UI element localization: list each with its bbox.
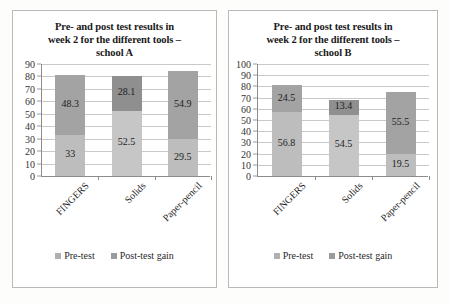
bar-fingers: 48.333 [55, 75, 85, 176]
figure-page: Pre- and post test results in week 2 for… [0, 0, 450, 303]
data-label-pre-test: 33 [65, 148, 75, 159]
x-axis-tick-mark [98, 176, 99, 180]
y-axis-tick-label: 0 [246, 171, 251, 182]
data-label-post-test-gain: 48.3 [61, 98, 79, 109]
segment-pre-test: 29.5 [168, 139, 198, 176]
y-axis-tick-label: 90 [241, 70, 251, 81]
x-axis-category-label: FINGERS [270, 180, 307, 217]
chart-title-line-3: school B [241, 46, 425, 59]
gridline [258, 75, 429, 76]
legend-item-post-test-gain[interactable]: Post-test gain [329, 250, 392, 261]
chart-title-line-3: school A [25, 46, 204, 59]
y-axis-tick-label: 70 [25, 83, 35, 94]
data-label-post-test-gain: 28.1 [118, 86, 136, 97]
y-axis-tick-label: 80 [241, 81, 251, 92]
data-label-pre-test: 56.8 [278, 137, 296, 148]
legend-school-a: Pre-test Post-test gain [13, 250, 216, 261]
x-axis-category-label: FINGERS [54, 180, 91, 217]
y-axis-tick-label: 10 [241, 159, 251, 170]
legend-swatch-post-test-gain-icon [111, 253, 117, 259]
segment-pre-test: 19.5 [386, 154, 416, 176]
y-axis-tick-label: 50 [25, 108, 35, 119]
legend-school-b: Pre-test Post-test gain [229, 250, 437, 261]
data-label-pre-test: 19.5 [392, 158, 410, 169]
segment-pre-test: 52.5 [112, 111, 142, 176]
bar-fingers: 24.556.8 [272, 85, 302, 176]
y-axis-tick-label: 90 [25, 59, 35, 70]
chart-title-line-1: Pre- and post test results in [25, 20, 204, 33]
plot-area-school-a: 48.33328.152.554.929.5 [41, 64, 210, 177]
segment-post-test-gain: 28.1 [112, 76, 142, 111]
y-axis-tick-label: 100 [236, 59, 251, 70]
y-axis-tick-label: 80 [25, 71, 35, 82]
y-axis-tick-label: 60 [241, 103, 251, 114]
segment-post-test-gain: 13.4 [329, 100, 359, 115]
chart-title-line-2: week 2 for the different tools – [25, 33, 204, 46]
bar-solids: 28.152.5 [112, 76, 142, 176]
y-axis-tick-label: 40 [241, 126, 251, 137]
y-axis-tick-label: 50 [241, 115, 251, 126]
y-axis-tick-label: 60 [25, 96, 35, 107]
x-axis-tick-mark [372, 176, 373, 180]
data-label-post-test-gain: 24.5 [278, 92, 296, 103]
legend-swatch-pre-test-icon [55, 253, 61, 259]
legend-swatch-post-test-gain-icon [329, 253, 335, 259]
y-axis-tick-label: 10 [25, 158, 35, 169]
gridline [42, 64, 211, 65]
segment-pre-test: 33 [55, 135, 85, 176]
y-axis-school-b: 0102030405060708090100 [229, 64, 253, 176]
x-axis-category-label: Solids [122, 180, 147, 205]
legend-item-pre-test[interactable]: Pre-test [55, 250, 95, 261]
x-axis-category-label: Paper-pencil [378, 180, 421, 223]
bar-paper-pencil: 55.519.5 [386, 92, 416, 176]
legend-label-post-test-gain: Post-test gain [338, 250, 392, 261]
plot-wrap-school-b: 0102030405060708090100 24.556.813.454.55… [229, 64, 437, 252]
segment-post-test-gain: 48.3 [55, 75, 85, 135]
x-axis-tick-mark [211, 176, 212, 180]
data-label-pre-test: 52.5 [118, 136, 136, 147]
y-axis-tick-label: 0 [30, 171, 35, 182]
chart-title-line-1: Pre- and post test results in [241, 20, 425, 33]
y-axis-tick-label: 70 [241, 92, 251, 103]
chart-title-school-a: Pre- and post test results in week 2 for… [13, 11, 216, 59]
data-label-post-test-gain: 13.4 [335, 100, 353, 111]
legend-label-post-test-gain: Post-test gain [120, 250, 174, 261]
y-axis-school-a: 0102030405060708090 [13, 64, 37, 176]
bar-solids: 13.454.5 [329, 100, 359, 176]
plot-wrap-school-a: 0102030405060708090 48.33328.152.554.929… [13, 64, 216, 252]
data-label-pre-test: 54.5 [335, 138, 353, 149]
segment-post-test-gain: 24.5 [272, 85, 302, 112]
legend-swatch-pre-test-icon [274, 253, 280, 259]
x-axis-tick-mark [429, 176, 430, 180]
x-axis-category-label: Paper-pencil [160, 180, 203, 223]
y-axis-tick-label: 30 [25, 133, 35, 144]
data-label-post-test-gain: 54.9 [174, 98, 192, 109]
y-axis-tick-label: 30 [241, 137, 251, 148]
chart-title-school-b: Pre- and post test results in week 2 for… [229, 11, 437, 59]
legend-item-post-test-gain[interactable]: Post-test gain [111, 250, 174, 261]
segment-post-test-gain: 54.9 [168, 71, 198, 139]
x-axis-category-label: Solids [339, 180, 364, 205]
y-axis-tick-label: 20 [25, 146, 35, 157]
segment-pre-test: 54.5 [329, 115, 359, 176]
chart-panel-school-b: Pre- and post test results in week 2 for… [228, 10, 438, 288]
legend-item-pre-test[interactable]: Pre-test [274, 250, 314, 261]
bar-paper-pencil: 54.929.5 [168, 71, 198, 176]
x-axis-tick-mark [155, 176, 156, 180]
y-axis-tick-label: 40 [25, 121, 35, 132]
data-label-post-test-gain: 55.5 [392, 116, 410, 127]
y-axis-tick-label: 20 [241, 148, 251, 159]
x-axis-tick-mark [315, 176, 316, 180]
gridline [258, 64, 429, 65]
segment-pre-test: 56.8 [272, 112, 302, 176]
data-label-pre-test: 29.5 [174, 151, 192, 162]
chart-panel-school-a: Pre- and post test results in week 2 for… [12, 10, 217, 288]
legend-label-pre-test: Pre-test [283, 250, 314, 261]
legend-label-pre-test: Pre-test [64, 250, 95, 261]
plot-area-school-b: 24.556.813.454.555.519.5 [257, 64, 428, 177]
chart-title-line-2: week 2 for the different tools – [241, 33, 425, 46]
segment-post-test-gain: 55.5 [386, 92, 416, 154]
